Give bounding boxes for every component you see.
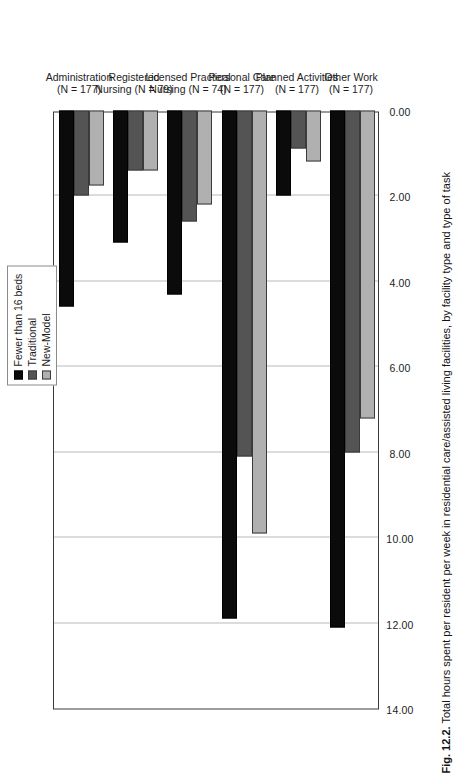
tick-label: 0.00 [382, 105, 418, 117]
figure-caption: Fig. 12.2. Total hours spent per residen… [440, 0, 453, 773]
bar [89, 110, 104, 185]
plot-area [53, 111, 379, 709]
bar [113, 110, 128, 242]
legend-item: Traditional [26, 273, 38, 379]
bar [74, 110, 89, 195]
bar [59, 110, 74, 306]
category-label: Other Work(N = 177) [298, 70, 404, 94]
bar [237, 110, 252, 456]
bar [330, 110, 345, 627]
legend-label: New-Model [40, 313, 52, 366]
category-label-line1: Other Work [324, 70, 377, 82]
bar [276, 110, 291, 195]
bar [167, 110, 182, 294]
bar [345, 110, 360, 452]
category-label-line2: (N = 177) [298, 82, 404, 94]
tick-label: 14.00 [382, 703, 418, 715]
legend-swatch-icon [42, 370, 51, 379]
legend-item: Fewer than 16 beds [12, 273, 24, 379]
bar [252, 110, 267, 533]
figure-container: 14.0012.0010.008.006.004.002.000.00 Admi… [0, 0, 470, 773]
bar [143, 110, 158, 170]
bar [360, 110, 375, 418]
caption-number: Fig. 12.2. [440, 726, 452, 773]
bar [306, 110, 321, 161]
tick-label: 8.00 [382, 447, 418, 459]
bar [291, 110, 306, 148]
legend-label: Fewer than 16 beds [12, 273, 24, 366]
legend: Fewer than 16 bedsTraditionalNew-Model [7, 265, 57, 385]
legend-swatch-icon [28, 370, 37, 379]
bar [182, 110, 197, 221]
tick-label: 6.00 [382, 361, 418, 373]
bar [197, 110, 212, 204]
tick-label: 12.00 [382, 618, 418, 630]
caption-text: Total hours spent per resident per week … [440, 172, 452, 724]
bar [222, 110, 237, 618]
legend-item: New-Model [40, 273, 52, 379]
tick-label: 4.00 [382, 276, 418, 288]
tick-label: 2.00 [382, 190, 418, 202]
tick-label: 10.00 [382, 532, 418, 544]
legend-swatch-icon [14, 370, 23, 379]
legend-label: Traditional [26, 317, 38, 366]
bar [128, 110, 143, 170]
